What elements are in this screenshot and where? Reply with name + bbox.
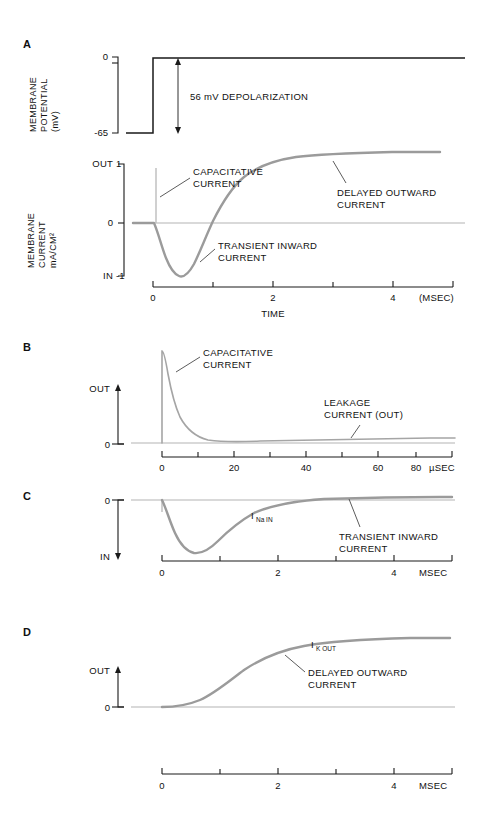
label-ik-subscript: K OUT bbox=[316, 645, 336, 652]
x-axis-ticks-d bbox=[162, 768, 452, 774]
x-unit-d: MSEC bbox=[419, 780, 447, 791]
annotation-delayed-outward-current-a: DELAYED OUTWARD CURRENT bbox=[333, 161, 437, 210]
label-transient-inward-current-a-line2: CURRENT bbox=[218, 252, 267, 263]
label-capacitative-current-b-line2: CURRENT bbox=[203, 359, 252, 370]
y-label-out-b: OUT bbox=[89, 383, 110, 394]
y-label-zero-b: 0 bbox=[105, 439, 110, 450]
panel-letter-c: C bbox=[23, 490, 31, 502]
ylabel-line-2: POTENTIAL bbox=[39, 78, 49, 132]
panel-d: D OUT 0 I K OUT DELAYED OUTWARD CURRENT … bbox=[23, 626, 455, 791]
y-axis-line-d bbox=[118, 670, 124, 707]
annotation-transient-inward-current-a: TRANSIENT INWARD CURRENT bbox=[200, 240, 317, 263]
panel-letter-b: B bbox=[23, 341, 31, 353]
y-axis-arrow-up-icon-b bbox=[115, 384, 121, 391]
x-axis-title-a: TIME bbox=[261, 308, 285, 319]
label-ina-symbol: I bbox=[251, 510, 254, 521]
depolarization-arrow bbox=[175, 58, 181, 134]
x-axis-panel-b: 0 20 40 60 80 µSEC bbox=[159, 451, 454, 473]
label-capacitative-current-b: CAPACITATIVE bbox=[203, 347, 273, 358]
x-axis-panel-d: 0 2 4 MSEC bbox=[159, 768, 452, 791]
current-tick-word-out: OUT bbox=[92, 158, 113, 169]
y-label-in-c: IN bbox=[100, 551, 110, 562]
label-capacitative-current-a: CAPACITATIVE bbox=[193, 166, 263, 177]
x-axis-panel-a: 0 2 4 (MSEC) TIME bbox=[150, 281, 454, 319]
x-axis-panel-c: 0 2 4 MSEC bbox=[159, 555, 452, 578]
x-unit-a: (MSEC) bbox=[419, 292, 454, 303]
label-capacitative-current-a-line2: CURRENT bbox=[193, 178, 242, 189]
panel-letter-d: D bbox=[23, 626, 31, 638]
panel-letter-a: A bbox=[23, 38, 31, 50]
voltage-tick-label-0: 0 bbox=[103, 51, 108, 62]
label-transient-inward-current-a: TRANSIENT INWARD bbox=[218, 240, 317, 251]
current-ylabel-line-1: MEMBRANE bbox=[26, 213, 36, 268]
annotation-capacitative-current-a: CAPACITATIVE CURRENT bbox=[160, 166, 263, 197]
ylabel-line-1: MEMBRANE bbox=[28, 77, 38, 132]
x-tick-label-c-4: 4 bbox=[391, 567, 396, 578]
y-label-zero-c: 0 bbox=[105, 495, 110, 506]
x-tick-label-d-4: 4 bbox=[391, 780, 396, 791]
leader-transient-inward-c bbox=[349, 499, 360, 527]
y-axis-line-c bbox=[118, 500, 124, 556]
voltage-tick-label-65: -65 bbox=[94, 127, 108, 138]
x-unit-c: MSEC bbox=[419, 567, 447, 578]
y-axis-panel-d: OUT 0 bbox=[89, 665, 124, 713]
x-tick-label-b-60: 60 bbox=[373, 462, 384, 473]
x-axis-ticks-a bbox=[153, 281, 453, 287]
current-tick-word-in: IN bbox=[103, 270, 113, 281]
subplot-membrane-potential: MEMBRANE POTENTIAL (mV) 0 -65 56 mV DEPO… bbox=[28, 51, 465, 138]
label-delayed-outward-current-d: DELAYED OUTWARD bbox=[308, 667, 408, 678]
current-tick-label-1: 1 bbox=[116, 158, 121, 169]
x-unit-b: µSEC bbox=[429, 462, 455, 473]
total-membrane-current-curve bbox=[133, 152, 440, 276]
annotation-transient-inward-current-c: TRANSIENT INWARD CURRENT bbox=[339, 499, 438, 554]
current-tick-label-neg1: -1 bbox=[116, 270, 124, 281]
x-tick-label-c-2: 2 bbox=[275, 567, 280, 578]
y-axis-arrow-up-icon-d bbox=[115, 666, 121, 673]
panel-c: C 0 IN I Na IN TRANSIENT INWARD CURRENT … bbox=[23, 490, 455, 578]
label-transient-inward-current-c: TRANSIENT INWARD bbox=[339, 531, 438, 542]
x-tick-label-c-0: 0 bbox=[159, 567, 164, 578]
figure-container: A MEMBRANE POTENTIAL (mV) 0 -65 56 mV DE… bbox=[0, 0, 478, 837]
current-axis-bracket bbox=[118, 164, 124, 276]
y-axis-label-membrane-current: MEMBRANE CURRENT mA/CM² bbox=[26, 213, 58, 268]
x-tick-label-a-2: 2 bbox=[270, 292, 275, 303]
y-label-zero-d: 0 bbox=[105, 702, 110, 713]
leader-leakage-b bbox=[351, 425, 360, 438]
current-tick-label-0: 0 bbox=[108, 217, 113, 228]
ylabel-line-3: (mV) bbox=[50, 111, 60, 132]
y-axis-panel-b: OUT 0 bbox=[89, 383, 124, 450]
label-leakage-current-b-line2: CURRENT (OUT) bbox=[324, 409, 403, 420]
x-tick-label-b-40: 40 bbox=[301, 462, 312, 473]
x-tick-label-d-0: 0 bbox=[159, 780, 164, 791]
current-ylabel-line-2: CURRENT bbox=[37, 221, 47, 268]
series-label-ik-d: I K OUT bbox=[311, 639, 336, 652]
x-tick-label-d-2: 2 bbox=[275, 780, 280, 791]
arrow-head-up-icon bbox=[175, 58, 181, 65]
annotation-delayed-outward-current-d: DELAYED OUTWARD CURRENT bbox=[285, 655, 408, 690]
depolarization-annotation: 56 mV DEPOLARIZATION bbox=[190, 91, 308, 102]
current-ylabel-line-3: mA/CM² bbox=[48, 233, 58, 268]
x-axis-ticks-b bbox=[162, 451, 452, 457]
annotation-capacitative-current-b: CAPACITATIVE CURRENT bbox=[176, 347, 273, 372]
label-ik-symbol: I bbox=[311, 639, 314, 650]
label-delayed-outward-current-d-line2: CURRENT bbox=[308, 679, 357, 690]
label-delayed-outward-current-a-line2: CURRENT bbox=[337, 199, 386, 210]
leader-delayed-outward-a bbox=[333, 161, 346, 183]
y-axis-arrow-down-icon-c bbox=[115, 553, 121, 560]
x-axis-ticks-c bbox=[162, 555, 452, 561]
leader-capacitative-a bbox=[160, 178, 190, 197]
x-tick-label-a-4: 4 bbox=[390, 292, 395, 303]
voltage-axis-bracket bbox=[112, 57, 118, 133]
y-axis-label-membrane-potential: MEMBRANE POTENTIAL (mV) bbox=[28, 77, 60, 132]
label-leakage-current-b: LEAKAGE bbox=[324, 397, 370, 408]
label-delayed-outward-current-a: DELAYED OUTWARD bbox=[337, 187, 437, 198]
x-tick-label-b-0: 0 bbox=[159, 462, 164, 473]
annotation-leakage-current-b: LEAKAGE CURRENT (OUT) bbox=[324, 397, 403, 438]
panel-a: A MEMBRANE POTENTIAL (mV) 0 -65 56 mV DE… bbox=[23, 38, 465, 319]
leader-transient-inward-a bbox=[200, 249, 215, 262]
leader-delayed-outward-d bbox=[285, 655, 305, 672]
label-transient-inward-current-c-line2: CURRENT bbox=[339, 543, 388, 554]
x-tick-label-b-20: 20 bbox=[229, 462, 240, 473]
y-axis-panel-c: 0 IN bbox=[100, 495, 124, 562]
subplot-membrane-current: MEMBRANE CURRENT mA/CM² OUT 1 0 IN -1 CA… bbox=[26, 152, 465, 319]
